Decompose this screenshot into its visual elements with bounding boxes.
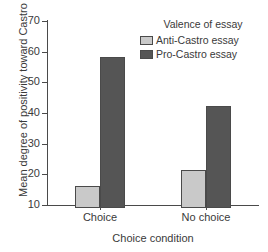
bar-chart-figure: Mean degree of positivity toward Castro … — [0, 0, 268, 252]
bar — [206, 106, 231, 208]
bar — [100, 57, 125, 208]
y-axis-tick-label: 60 — [2, 46, 40, 57]
legend-item: Pro-Castro essay — [140, 48, 266, 61]
bar — [181, 170, 206, 208]
legend-entries: Anti-Castro essayPro-Castro essay — [140, 34, 266, 61]
bar — [75, 186, 100, 208]
legend: Valence of essay Anti-Castro essayPro-Ca… — [140, 18, 266, 61]
legend-title: Valence of essay — [140, 18, 266, 31]
legend-swatch-icon — [140, 36, 153, 45]
x-axis-title: Choice condition — [47, 232, 259, 244]
y-axis-tick-label: 70 — [2, 15, 40, 26]
y-axis-tick-label: 30 — [2, 138, 40, 149]
y-axis-tick-label: 20 — [2, 168, 40, 179]
legend-item-label: Anti-Castro essay — [156, 34, 239, 47]
y-axis-tick-label: 40 — [2, 107, 40, 118]
x-axis-category-label: Choice — [50, 211, 150, 223]
y-axis-tick-label: 50 — [2, 76, 40, 87]
legend-swatch-icon — [140, 50, 153, 59]
legend-item-label: Pro-Castro essay — [156, 48, 237, 61]
x-axis-category-label: No choice — [156, 211, 256, 223]
y-axis-tick-label: 10 — [2, 199, 40, 210]
legend-item: Anti-Castro essay — [140, 34, 266, 47]
